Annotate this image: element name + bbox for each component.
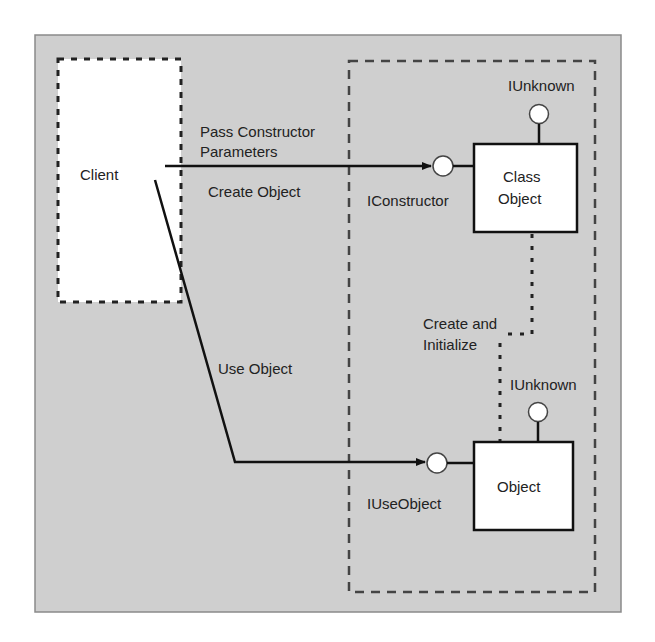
create-initialize-label-1: Create and (423, 315, 497, 332)
iunknown-icon (529, 403, 548, 422)
iconstructor-icon (433, 156, 453, 176)
iuseobject-icon (427, 453, 447, 473)
object-box: Object (474, 442, 573, 530)
iuseobject-label: IUseObject (367, 495, 442, 512)
class-object-label-2: Object (498, 190, 542, 207)
use-object-label: Use Object (218, 360, 293, 377)
class-object-label-1: Class (503, 168, 541, 185)
iunknown-label-bottom: IUnknown (510, 376, 577, 393)
pass-constructor-label-2: Parameters (200, 143, 278, 160)
class-object-box: Class Object (474, 144, 577, 232)
iconstructor-label: IConstructor (367, 192, 449, 209)
client-box: Client (58, 59, 181, 302)
object-label: Object (497, 478, 541, 495)
com-object-creation-diagram: Client Pass Constructor Parameters Creat… (0, 0, 655, 642)
iunknown-label-top: IUnknown (508, 77, 575, 94)
pass-constructor-label-1: Pass Constructor (200, 123, 315, 140)
create-object-label: Create Object (208, 183, 301, 200)
iunknown-icon (530, 105, 549, 124)
create-initialize-label-2: Initialize (423, 336, 477, 353)
client-label: Client (80, 166, 119, 183)
